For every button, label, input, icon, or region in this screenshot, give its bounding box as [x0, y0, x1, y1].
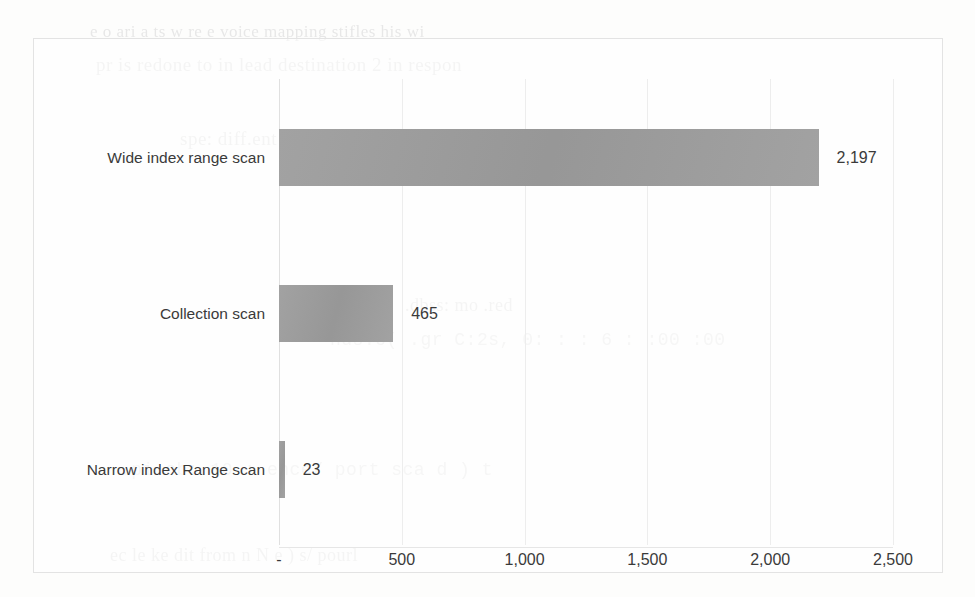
- category-label: Wide index range scan: [107, 129, 265, 186]
- x-axis-tick-labels: -5001,0001,5002,0002,500: [279, 551, 893, 581]
- bar-row: Wide index range scan2,197: [279, 79, 893, 235]
- chart-container: Wide index range scan2,197Collection sca…: [33, 38, 943, 573]
- x-tick-label-1000: 1,000: [505, 551, 545, 569]
- bar-row: Collection scan465: [279, 235, 893, 391]
- x-tick-label-1500: 1,500: [627, 551, 667, 569]
- x-axis-line: [279, 547, 893, 548]
- gridline-2500: [893, 79, 894, 545]
- bar-value-label: 2,197: [837, 129, 877, 186]
- bar-row: Narrow index Range scan23: [279, 391, 893, 547]
- scanned-page: e o ari a ts w re e voice mapping stifle…: [0, 0, 975, 597]
- bar-value-label: 23: [303, 441, 321, 498]
- x-tick-label-2500: 2,500: [873, 551, 913, 569]
- plot-area: Wide index range scan2,197Collection sca…: [279, 79, 893, 547]
- category-label: Collection scan: [160, 285, 265, 342]
- bar[interactable]: [279, 129, 819, 186]
- category-label: Narrow index Range scan: [87, 441, 265, 498]
- x-tick-label-0: -: [276, 551, 281, 569]
- bar-value-label: 465: [411, 285, 438, 342]
- x-tick-label-500: 500: [388, 551, 415, 569]
- x-tick-label-2000: 2,000: [750, 551, 790, 569]
- bar[interactable]: [279, 285, 393, 342]
- bar[interactable]: [279, 441, 285, 498]
